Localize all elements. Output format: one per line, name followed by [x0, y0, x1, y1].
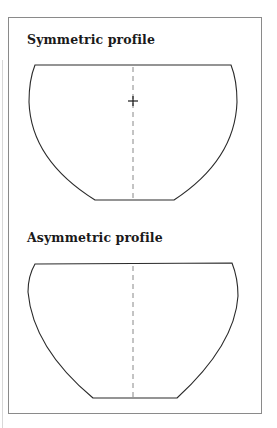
crosshair-icon: [128, 96, 138, 106]
symmetric-profile: [29, 65, 237, 200]
profiles-drawing: [0, 0, 277, 428]
asymmetric-profile: [28, 263, 238, 398]
